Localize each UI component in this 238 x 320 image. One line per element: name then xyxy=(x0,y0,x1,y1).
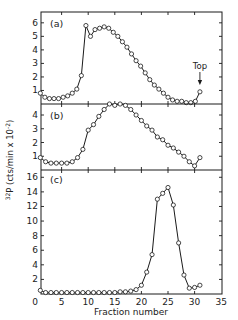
data-point xyxy=(171,203,175,207)
data-point xyxy=(75,156,79,160)
data-point xyxy=(66,94,70,98)
data-point xyxy=(113,290,117,294)
panel-label: (b) xyxy=(50,110,63,121)
data-point xyxy=(150,253,154,257)
data-point xyxy=(75,290,79,294)
arrow-head-icon xyxy=(198,80,202,85)
data-point xyxy=(65,161,69,165)
y-axis-label-main: P (cts/min x 10 xyxy=(5,129,15,193)
data-point xyxy=(161,138,165,142)
data-point xyxy=(120,40,124,44)
data-point xyxy=(193,285,197,289)
x-tick-label: 20 xyxy=(136,297,148,307)
data-point xyxy=(139,118,143,122)
data-point xyxy=(152,83,156,87)
y-axis-label: 32P (cts/min x 10-2) xyxy=(4,120,15,201)
data-point xyxy=(38,288,42,292)
data-point xyxy=(123,290,127,294)
y-axis-label-close: ) xyxy=(5,120,15,123)
data-point xyxy=(81,147,85,151)
data-point xyxy=(86,290,90,294)
y-tick-label: 8 xyxy=(32,231,38,241)
data-point xyxy=(129,107,133,111)
data-point xyxy=(38,156,42,160)
data-point xyxy=(187,286,191,290)
x-tick-label: 10 xyxy=(82,297,94,307)
data-point xyxy=(60,290,64,294)
data-point xyxy=(97,290,101,294)
data-point xyxy=(193,164,197,168)
y-tick-label: 3 xyxy=(32,58,38,68)
x-tick-label: 15 xyxy=(109,297,120,307)
data-point xyxy=(143,71,147,75)
data-point xyxy=(150,128,154,132)
data-point xyxy=(123,103,127,107)
panel-a: 123456(a)Top xyxy=(32,12,222,105)
data-point xyxy=(161,191,165,195)
data-point xyxy=(98,26,102,30)
y-tick-label: 4 xyxy=(32,45,38,55)
data-point xyxy=(88,34,92,38)
data-point xyxy=(145,124,149,128)
y-tick-label: 1 xyxy=(32,85,38,95)
panel-b: 1234(b) xyxy=(32,102,222,170)
y-tick-label: 10 xyxy=(27,216,39,226)
x-axis: 05101520253035 xyxy=(32,297,227,307)
data-point xyxy=(52,96,56,100)
x-tick-label: 5 xyxy=(59,297,65,307)
panel-label: (a) xyxy=(50,18,63,29)
data-point xyxy=(70,160,74,164)
data-point xyxy=(70,290,74,294)
data-point xyxy=(166,143,170,147)
y-tick-label: 1 xyxy=(32,151,38,161)
panel-label: (c) xyxy=(50,174,63,185)
data-point xyxy=(166,95,170,99)
data-point xyxy=(175,99,179,103)
y-tick-label: 12 xyxy=(27,201,38,211)
y-tick-label: 3 xyxy=(32,124,38,134)
data-point xyxy=(198,90,202,94)
data-point xyxy=(161,91,165,95)
data-point xyxy=(125,45,129,49)
data-point xyxy=(182,273,186,277)
figure: 123456(a)Top1234(b)246810121416(c) 05101… xyxy=(0,0,238,320)
data-point xyxy=(91,123,95,127)
data-point xyxy=(44,290,48,294)
series-line xyxy=(40,188,200,293)
data-point xyxy=(54,161,58,165)
data-point xyxy=(111,30,115,34)
data-point xyxy=(107,102,111,106)
data-point xyxy=(182,154,186,158)
data-point xyxy=(43,95,47,99)
y-tick-label: 4 xyxy=(32,260,38,270)
data-point xyxy=(145,270,149,274)
y-tick-label: 6 xyxy=(32,245,38,255)
data-point xyxy=(60,161,64,165)
y-tick-label: 5 xyxy=(32,31,38,41)
data-point xyxy=(148,78,152,82)
data-point xyxy=(116,34,120,38)
data-point xyxy=(44,160,48,164)
y-tick-label: 14 xyxy=(27,187,39,197)
data-point xyxy=(193,99,197,103)
x-tick-label: 30 xyxy=(189,297,201,307)
data-point xyxy=(118,102,122,106)
data-point xyxy=(129,52,133,56)
data-point xyxy=(91,290,95,294)
data-point xyxy=(61,95,65,99)
y-tick-label: 2 xyxy=(32,274,38,284)
data-point xyxy=(180,99,184,103)
data-point xyxy=(47,96,51,100)
data-point xyxy=(102,107,106,111)
data-point xyxy=(79,73,83,77)
y-tick-label: 2 xyxy=(32,72,38,82)
y-tick-label: 2 xyxy=(32,138,38,148)
y-tick-label: 6 xyxy=(32,18,38,28)
data-point xyxy=(166,185,170,189)
data-point xyxy=(81,290,85,294)
data-point xyxy=(155,197,159,201)
data-point xyxy=(70,91,74,95)
data-point xyxy=(187,160,191,164)
data-point xyxy=(75,87,79,91)
data-point xyxy=(86,128,90,132)
